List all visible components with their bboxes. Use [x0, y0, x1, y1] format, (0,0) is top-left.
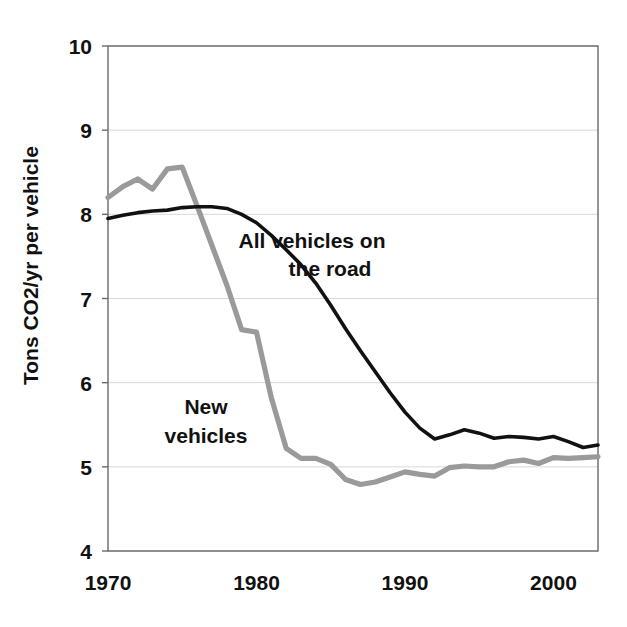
chart-background [0, 0, 627, 627]
y-tick-label: 4 [80, 540, 92, 563]
y-tick-label: 9 [80, 119, 92, 142]
annotation-all-vehicles-line2: the road [289, 257, 372, 280]
y-tick-label: 5 [80, 456, 92, 479]
annotation-new-vehicles-line2: vehicles [165, 424, 248, 447]
chart-figure: 10987654 1970198019902000 Tons CO2/yr pe… [0, 0, 627, 627]
x-tick-label: 1970 [85, 571, 132, 594]
y-tick-label: 7 [80, 288, 92, 311]
x-tick-label: 1980 [233, 571, 280, 594]
y-tick-label: 10 [69, 35, 92, 58]
x-tick-label: 2000 [530, 571, 577, 594]
y-tick-label: 6 [80, 372, 92, 395]
x-tick-label: 1990 [382, 571, 429, 594]
line-chart: 10987654 1970198019902000 Tons CO2/yr pe… [0, 0, 627, 627]
y-tick-label: 8 [80, 203, 92, 226]
annotation-new-vehicles-line1: New [184, 395, 228, 418]
y-axis-title: Tons CO2/yr per vehicle [19, 146, 42, 385]
annotation-all-vehicles-line1: All vehicles on [238, 229, 385, 252]
